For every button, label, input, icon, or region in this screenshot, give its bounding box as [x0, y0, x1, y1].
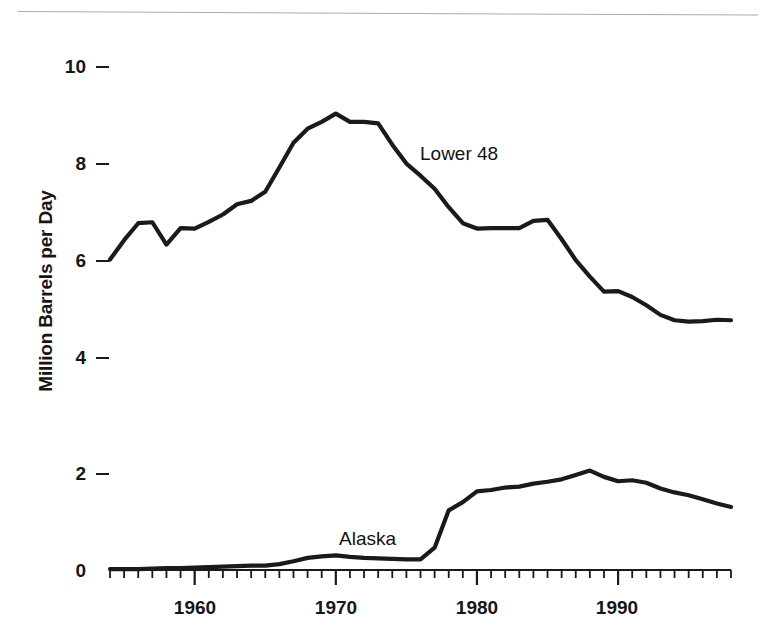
data-line-lower-48	[110, 114, 731, 322]
chart-figure: Million Barrels per Day 10 8 6 4 2 0 196…	[0, 0, 766, 641]
x-axis	[110, 570, 731, 585]
data-line-alaska	[110, 471, 731, 569]
plot-area	[0, 0, 766, 641]
x-axis-ticks	[110, 570, 731, 585]
